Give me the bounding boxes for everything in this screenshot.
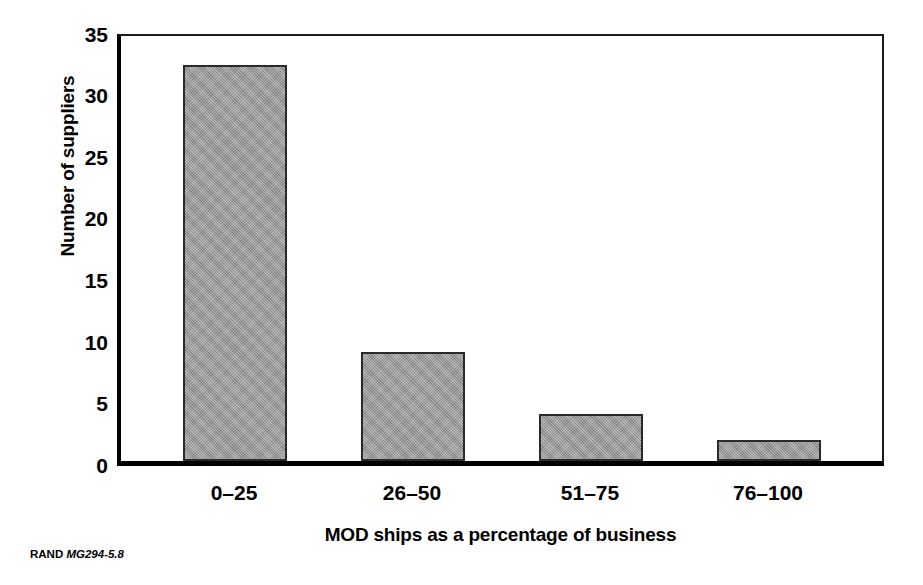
y-tick-label-35: 35 [48, 24, 108, 45]
y-tick-label-25: 25 [48, 147, 108, 168]
x-tick-label-0-25: 0–25 [134, 482, 334, 503]
x-tick-label-76-100: 76–100 [668, 482, 868, 503]
bar-76-100 [717, 440, 821, 461]
bar-26-50 [361, 352, 465, 461]
y-tick-label-10: 10 [48, 332, 108, 353]
plot-inner [121, 36, 882, 461]
caption-source: RAND [30, 548, 63, 560]
y-tick-label-5: 5 [48, 393, 108, 414]
x-tick-label-51-75: 51–75 [490, 482, 690, 503]
caption-figure-id: MG294-5.8 [66, 548, 124, 560]
y-tick-label-20: 20 [48, 208, 108, 229]
y-tick-label-30: 30 [48, 85, 108, 106]
plot-area [117, 34, 884, 466]
bar-51-75 [539, 414, 643, 461]
bar-0-25 [183, 65, 287, 461]
y-tick-label-15: 15 [48, 270, 108, 291]
x-tick-label-26-50: 26–50 [312, 482, 512, 503]
y-tick-label-0: 0 [48, 455, 108, 476]
chart-figure: Number of suppliers 35 30 25 20 15 10 5 … [0, 0, 923, 585]
x-axis-title: MOD ships as a percentage of business [117, 524, 884, 546]
figure-caption: RAND MG294-5.8 [30, 548, 124, 560]
